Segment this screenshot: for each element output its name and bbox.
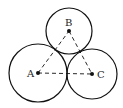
label-b: B bbox=[65, 17, 72, 28]
label-a: A bbox=[26, 68, 35, 79]
point-a bbox=[36, 71, 40, 75]
point-b bbox=[67, 29, 71, 33]
label-c: C bbox=[97, 69, 105, 80]
segment-ab bbox=[38, 31, 69, 73]
segment-ac bbox=[38, 73, 92, 74]
tangent-circles-diagram: A B C bbox=[0, 0, 123, 108]
segment-bc bbox=[69, 31, 92, 74]
point-c bbox=[90, 72, 94, 76]
